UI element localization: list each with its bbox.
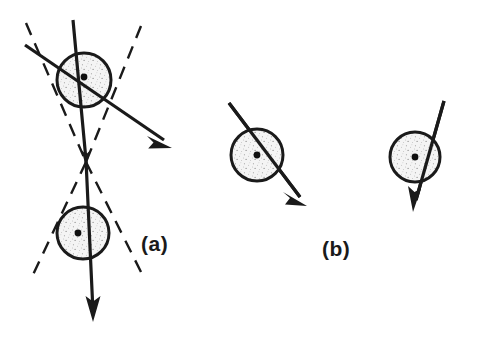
panel-b-right-ray-arrowhead <box>408 186 421 212</box>
figure-root: (a) (b) <box>0 0 489 342</box>
panel-b-right-center-dot <box>412 154 419 161</box>
panel-a-upper-center-dot <box>81 74 88 81</box>
scattering-diagram-svg <box>0 0 489 342</box>
panel-a-label: (a) <box>141 232 168 256</box>
panel-b-left-ray-arrowhead <box>283 192 307 206</box>
panel-a-group <box>25 20 172 322</box>
panel-b-label: (b) <box>322 237 350 261</box>
panel-b-left-center-dot <box>254 152 261 159</box>
panel-a-lower-center-dot <box>75 230 82 237</box>
panel-a-lower-circle <box>57 207 109 259</box>
